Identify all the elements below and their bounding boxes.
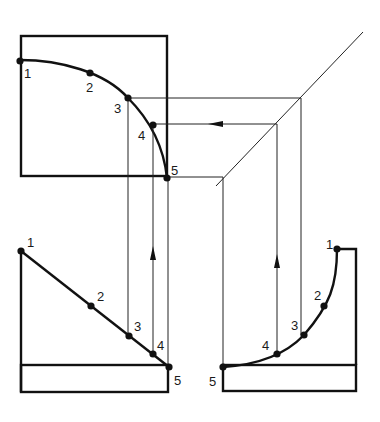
side-view-label-1: 1 xyxy=(326,237,333,252)
projector-lines xyxy=(128,98,301,367)
top-view-arc xyxy=(20,60,167,178)
side-view-label-4: 4 xyxy=(262,338,269,353)
direction-arrows xyxy=(150,121,280,268)
arrow-up-side-icon xyxy=(274,254,280,268)
side-view-curve xyxy=(223,249,337,367)
front-view-label-1: 1 xyxy=(27,235,34,250)
front-view-label-4: 4 xyxy=(157,338,164,353)
side-view-label-3: 3 xyxy=(291,318,298,333)
front-view-label-5: 5 xyxy=(174,373,181,388)
front-view-point-5 xyxy=(165,363,172,370)
top-view-point-2 xyxy=(86,69,93,76)
side-view-base xyxy=(223,365,356,391)
top-view-point-3 xyxy=(124,94,131,101)
side-view-point-2 xyxy=(320,302,327,309)
top-view-point-1 xyxy=(16,57,23,64)
front-view-label-2: 2 xyxy=(97,289,104,304)
top-view-label-4: 4 xyxy=(138,128,145,143)
top-view xyxy=(20,36,167,178)
top-view-point-4 xyxy=(149,121,156,128)
side-view-label-2: 2 xyxy=(314,288,321,303)
front-view-point-2 xyxy=(87,302,94,309)
miter-line xyxy=(216,32,363,186)
front-view-point-4 xyxy=(149,350,156,357)
front-view-base xyxy=(21,365,168,392)
front-view-label-3: 3 xyxy=(134,319,141,334)
top-view-label-3: 3 xyxy=(114,101,121,116)
side-view-label-5: 5 xyxy=(209,374,216,389)
top-view-point-5 xyxy=(163,174,170,181)
side-view-point-5 xyxy=(219,363,226,370)
top-view-label-1: 1 xyxy=(24,66,31,81)
front-view-point-3 xyxy=(125,332,132,339)
front-view xyxy=(21,251,169,392)
side-view-right-edge xyxy=(337,249,356,365)
top-view-label-2: 2 xyxy=(86,80,93,95)
top-view-frame xyxy=(21,36,167,176)
side-view-point-1 xyxy=(333,245,340,252)
projection-diagram: 123451234512345 xyxy=(0,0,380,422)
arrow-up-front-icon xyxy=(150,246,156,260)
side-view-point-4 xyxy=(273,350,280,357)
point-markers: 123451234512345 xyxy=(16,57,340,389)
side-view xyxy=(223,249,356,391)
front-view-point-1 xyxy=(17,247,24,254)
front-view-diagonal xyxy=(21,251,169,367)
side-view-point-3 xyxy=(300,331,307,338)
top-view-label-5: 5 xyxy=(171,163,178,178)
arrow-left-icon xyxy=(208,121,223,127)
